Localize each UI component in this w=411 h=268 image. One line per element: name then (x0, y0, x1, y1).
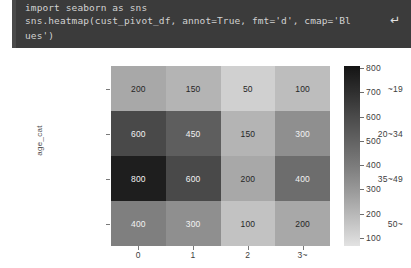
heatmap-figure: age_cat ~1920~3435~4950~ 0123~ 200150501… (0, 48, 411, 268)
heatmap-cell-value: 600 (186, 174, 201, 184)
heatmap-cell-value: 100 (240, 219, 255, 229)
code-line-2: sns.heatmap(cust_pivot_df, annot=True, f… (25, 15, 351, 26)
y-axis-tick-mark (106, 89, 110, 90)
line-wrap-icon: ↵ (390, 14, 400, 26)
heatmap-cell: 600 (166, 156, 221, 201)
heatmap-cell: 200 (221, 156, 276, 201)
heatmap-cell: 600 (111, 111, 166, 156)
heatmap-cell-value: 150 (186, 84, 201, 94)
colorbar-tick-mark (360, 68, 364, 69)
heatmap-cell-value: 200 (240, 174, 255, 184)
x-axis-tick-mark (248, 246, 249, 250)
colorbar-tick-label: 800 (366, 64, 381, 72)
heatmap-cell: 150 (166, 66, 221, 111)
colorbar-tick-mark (360, 189, 364, 190)
heatmap-cell: 200 (275, 201, 330, 246)
colorbar-tick-label: 700 (366, 88, 381, 96)
code-line-3: ues') (25, 30, 54, 41)
heatmap-cell: 100 (275, 66, 330, 111)
heatmap-cell: 450 (166, 111, 221, 156)
heatmap-cell-value: 100 (295, 84, 310, 94)
colorbar-gradient (344, 66, 360, 246)
heatmap-cell: 150 (221, 111, 276, 156)
heatmap-cell: 200 (111, 66, 166, 111)
heatmap-grid: 2001505010060045015030080060020040040030… (111, 66, 330, 246)
colorbar-tick-label: 400 (366, 161, 381, 169)
colorbar (344, 66, 360, 246)
x-axis-tick-mark (138, 246, 139, 250)
colorbar-tick-label: 300 (366, 185, 381, 193)
heatmap-cell-value: 400 (131, 219, 146, 229)
y-axis-tick-mark (106, 134, 110, 135)
colorbar-tick-mark (360, 214, 364, 215)
colorbar-tick-label: 100 (366, 234, 381, 242)
x-axis-tick-mark (303, 246, 304, 250)
heatmap-cell-value: 200 (131, 84, 146, 94)
colorbar-tick-label: 600 (366, 113, 381, 121)
y-axis-label: age_cat (35, 96, 44, 186)
heatmap-cell: 300 (166, 201, 221, 246)
heatmap-cell-value: 200 (295, 219, 310, 229)
y-axis-tick-mark (106, 224, 110, 225)
code-cell[interactable]: import seaborn as sns sns.heatmap(cust_p… (12, 0, 411, 48)
y-axis-tick-mark (106, 179, 110, 180)
heatmap-cell: 300 (275, 111, 330, 156)
x-axis-tick-label: 3~ (275, 250, 330, 260)
heatmap-cell-value: 300 (186, 219, 201, 229)
heatmap-cell: 800 (111, 156, 166, 201)
heatmap-cell-value: 300 (295, 129, 310, 139)
heatmap-cell-value: 800 (131, 174, 146, 184)
heatmap-cell-value: 50 (243, 84, 253, 94)
colorbar-tick-mark (360, 238, 364, 239)
heatmap-cell: 400 (111, 201, 166, 246)
x-axis-tick-label: 1 (166, 250, 221, 260)
heatmap-cell: 100 (221, 201, 276, 246)
colorbar-tick-mark (360, 92, 364, 93)
heatmap-cell: 50 (221, 66, 276, 111)
heatmap-cell: 400 (275, 156, 330, 201)
heatmap-cell-value: 400 (295, 174, 310, 184)
colorbar-tick-label: 200 (366, 210, 381, 218)
x-axis-tick-label: 2 (221, 250, 276, 260)
heatmap-cell-value: 150 (240, 129, 255, 139)
colorbar-tick-mark (360, 117, 364, 118)
heatmap-cell-value: 600 (131, 129, 146, 139)
colorbar-tick-mark (360, 141, 364, 142)
colorbar-tick-mark (360, 165, 364, 166)
code-line-1: import seaborn as sns (25, 2, 147, 13)
colorbar-tick-label: 500 (366, 137, 381, 145)
heatmap-cell-value: 450 (186, 129, 201, 139)
x-axis-tick-label: 0 (111, 250, 166, 260)
x-axis-tick-mark (193, 246, 194, 250)
